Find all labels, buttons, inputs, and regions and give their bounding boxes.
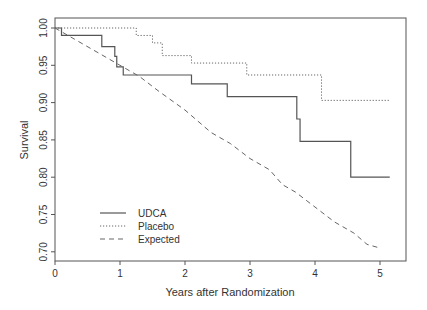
plot-frame bbox=[55, 18, 406, 261]
x-tick-label: 4 bbox=[312, 268, 318, 279]
survival-chart: 012345 0.700.750.800.850.900.951.00 UDCA… bbox=[0, 0, 427, 310]
series-placebo bbox=[55, 28, 390, 100]
x-tick-label: 0 bbox=[52, 268, 58, 279]
x-tick-label: 1 bbox=[117, 268, 123, 279]
x-tick-label: 5 bbox=[377, 268, 383, 279]
y-tick-label: 1.00 bbox=[38, 18, 49, 38]
x-tick-label: 2 bbox=[182, 268, 188, 279]
series-expected bbox=[55, 28, 380, 248]
series-udca bbox=[55, 28, 390, 177]
x-axis-label: Years after Randomization bbox=[165, 286, 294, 298]
y-tick-label: 0.80 bbox=[38, 167, 49, 187]
series-lines bbox=[55, 28, 390, 248]
x-tick-label: 3 bbox=[247, 268, 253, 279]
x-axis: 012345 bbox=[52, 261, 383, 279]
y-axis-label: Survival bbox=[18, 120, 30, 159]
y-tick-label: 0.95 bbox=[38, 55, 49, 75]
y-tick-label: 0.70 bbox=[38, 242, 49, 262]
y-tick-label: 0.90 bbox=[38, 92, 49, 112]
legend-label-expected: Expected bbox=[138, 234, 180, 245]
y-tick-label: 0.75 bbox=[38, 204, 49, 224]
legend: UDCAPlaceboExpected bbox=[100, 208, 180, 245]
y-axis: 0.700.750.800.850.900.951.00 bbox=[38, 18, 55, 262]
legend-label-udca: UDCA bbox=[138, 208, 167, 219]
legend-label-placebo: Placebo bbox=[138, 221, 175, 232]
y-tick-label: 0.85 bbox=[38, 130, 49, 150]
